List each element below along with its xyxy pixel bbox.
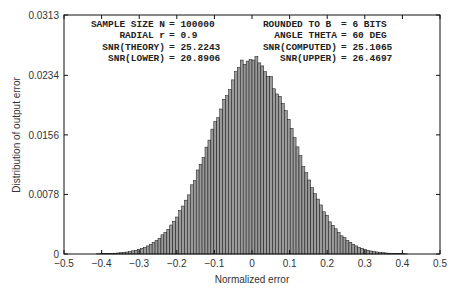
- histogram-bar: [179, 210, 182, 254]
- histogram-bar: [296, 147, 299, 254]
- histogram-bar: [211, 129, 214, 254]
- histogram-bar: [199, 164, 202, 254]
- annotation-label: RADIAL r: [119, 30, 165, 41]
- histogram-bar: [317, 199, 320, 254]
- histogram-bar: [190, 185, 193, 254]
- histogram-bar: [255, 56, 258, 254]
- histogram-bar: [302, 167, 305, 254]
- histogram-bar: [187, 195, 190, 254]
- histogram-bar: [243, 64, 246, 254]
- histogram-bar: [261, 66, 264, 254]
- histogram-bar: [299, 156, 302, 254]
- histogram-bar: [352, 244, 355, 254]
- annotation-value: = 25.1065: [341, 42, 393, 53]
- x-tick-label: −0.3: [129, 258, 149, 269]
- histogram-bar: [276, 94, 279, 254]
- y-tick-label: 0.0234: [28, 70, 59, 81]
- histogram-bar: [208, 140, 211, 254]
- x-tick-label: 0.2: [320, 258, 334, 269]
- histogram-bar: [270, 76, 273, 254]
- histogram-bar: [223, 99, 226, 254]
- histogram-bar: [325, 215, 328, 254]
- histogram-bar: [281, 103, 284, 254]
- annotation-label: SAMPLE SIZE N: [91, 19, 165, 30]
- histogram-bar: [367, 250, 370, 254]
- annotation-label: SNR(UPPER): [280, 53, 337, 64]
- histogram-bar: [146, 246, 149, 254]
- annotation-label: ROUNDED TO B: [263, 19, 337, 30]
- x-tick-label: 0.5: [433, 258, 447, 269]
- histogram-bar: [184, 200, 187, 254]
- annotation-value: = 26.4697: [341, 53, 393, 64]
- histogram-bar: [140, 248, 143, 254]
- histogram-bar: [278, 96, 281, 254]
- histogram-bar: [158, 238, 161, 254]
- histogram-bar: [155, 241, 158, 254]
- histogram-bar: [346, 240, 349, 254]
- x-tick-label: 0: [249, 258, 255, 269]
- y-tick-label: 0.0156: [28, 130, 59, 141]
- histogram-bar: [355, 246, 358, 254]
- histogram-bar: [328, 222, 331, 254]
- x-tick-label: 0.3: [358, 258, 372, 269]
- histogram-bar: [264, 72, 267, 254]
- annotation-value: = 20.8906: [169, 53, 221, 64]
- histogram-bar: [234, 72, 237, 254]
- histogram-bar: [202, 158, 205, 254]
- histogram-bar: [311, 188, 314, 254]
- histogram-bar: [143, 247, 146, 254]
- histogram-bar: [214, 122, 217, 255]
- histogram-bar: [167, 229, 170, 254]
- histogram-bar: [323, 212, 326, 254]
- y-tick-label: 0: [53, 249, 59, 260]
- annotation-label: SNR(COMPUTED): [263, 42, 337, 53]
- x-tick-label: −0.1: [205, 258, 225, 269]
- x-axis-label: Normalized error: [215, 274, 290, 285]
- histogram-bar: [320, 205, 323, 254]
- annotation-value: = 6 BITS: [341, 19, 387, 30]
- x-tick-label: −0.4: [92, 258, 112, 269]
- annotation-label: SNR(LOWER): [108, 53, 165, 64]
- annotation-value: = 25.2243: [169, 42, 221, 53]
- annotation-value: = 100000: [169, 19, 215, 30]
- y-tick-label: 0.0078: [28, 189, 59, 200]
- histogram-bar: [290, 128, 293, 254]
- x-tick-label: 0.1: [283, 258, 297, 269]
- histogram-bar: [149, 244, 152, 254]
- histogram-bar: [293, 138, 296, 254]
- histogram-bar: [361, 248, 364, 254]
- histogram-bar: [240, 60, 243, 254]
- histogram-bar: [284, 111, 287, 254]
- histogram-bar: [258, 63, 261, 254]
- histogram-bar: [205, 147, 208, 254]
- histogram-bar: [246, 61, 249, 254]
- annotation-block-right: ROUNDED TO B = 6 BITSANGLE THETA= 60 DEG…: [263, 19, 393, 64]
- annotation-block-left: SAMPLE SIZE N= 100000RADIAL r= 0.9SNR(TH…: [91, 19, 221, 64]
- histogram-bar: [182, 206, 185, 254]
- histogram-bar: [308, 180, 311, 254]
- histogram-bar: [220, 109, 223, 254]
- histogram-bar: [152, 242, 155, 254]
- histogram-bar: [229, 90, 232, 254]
- y-tick-label: 0.0313: [28, 10, 59, 21]
- histogram-bar: [331, 225, 334, 254]
- histogram-bar: [343, 238, 346, 254]
- histogram-bar: [164, 232, 167, 254]
- histogram-bar: [267, 76, 270, 254]
- histogram-bar: [193, 181, 196, 254]
- histogram-bar: [173, 221, 176, 254]
- histogram-bar: [176, 217, 179, 254]
- histogram-bar: [314, 194, 317, 254]
- histogram-bar: [237, 67, 240, 254]
- histogram-bar: [231, 80, 234, 254]
- histogram-bar: [161, 235, 164, 254]
- x-tick-label: 0.4: [395, 258, 409, 269]
- annotation-value: = 0.9: [169, 30, 198, 41]
- histogram-bar: [135, 250, 138, 254]
- histogram-bar: [252, 60, 255, 254]
- histogram-bar: [226, 96, 229, 254]
- y-axis-label: Distribution of output error: [11, 77, 22, 193]
- annotation-label: SNR(THEORY): [102, 42, 165, 53]
- x-tick-label: −0.2: [167, 258, 187, 269]
- histogram-bar: [305, 173, 308, 254]
